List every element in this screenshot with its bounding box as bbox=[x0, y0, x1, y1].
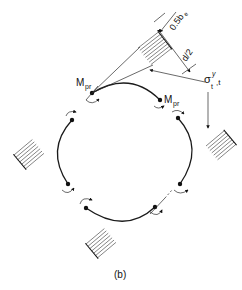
moment-label-right: M pr bbox=[164, 94, 180, 108]
hinge-axis bbox=[165, 190, 172, 198]
figure-caption: (b) bbox=[114, 269, 126, 280]
hinge-points bbox=[66, 91, 182, 210]
svg-text:t: t bbox=[211, 83, 213, 90]
hinge-axis bbox=[150, 198, 165, 214]
svg-text:e: e bbox=[182, 10, 189, 17]
arc-right bbox=[178, 118, 192, 184]
hinge-point bbox=[70, 118, 74, 122]
moment-arrow bbox=[172, 110, 184, 114]
hinge-point bbox=[66, 182, 70, 186]
moment-arrow bbox=[154, 106, 164, 108]
stress-block-left bbox=[13, 139, 44, 170]
dim-extension bbox=[154, 13, 165, 22]
arc-top bbox=[92, 83, 160, 100]
stress-label: σ y t ,t bbox=[204, 70, 221, 90]
dim-label-top: 0.5b e bbox=[167, 8, 189, 33]
svg-text:pr: pr bbox=[85, 83, 92, 91]
moment-arrow bbox=[66, 112, 76, 117]
stress-block-right bbox=[205, 130, 236, 161]
arc-bottom bbox=[86, 207, 155, 221]
moment-label-left: M pr bbox=[76, 77, 92, 91]
svg-text:,t: ,t bbox=[216, 78, 221, 87]
moment-arrow bbox=[62, 188, 74, 193]
hinge-point bbox=[176, 116, 180, 120]
svg-text:M: M bbox=[164, 94, 172, 105]
moment-arrow bbox=[80, 199, 92, 204]
hinge-point bbox=[158, 98, 162, 102]
hinge-point bbox=[178, 182, 182, 186]
moment-arrow bbox=[174, 190, 188, 193]
leader-line bbox=[92, 47, 140, 93]
moment-arrows bbox=[62, 99, 188, 215]
arc-left bbox=[57, 120, 72, 184]
hinge-point bbox=[84, 206, 88, 210]
svg-text:M: M bbox=[76, 77, 84, 88]
stress-block-top bbox=[137, 31, 172, 65]
moment-arrow bbox=[86, 99, 99, 103]
stress-pointer bbox=[150, 70, 205, 82]
svg-text:pr: pr bbox=[173, 100, 180, 108]
svg-text:σ: σ bbox=[204, 73, 211, 85]
svg-text:y: y bbox=[211, 70, 216, 78]
leader-line bbox=[92, 65, 153, 93]
stress-block-bottom bbox=[85, 228, 116, 259]
plastic-hinge-diagram: M pr M pr 0.5b e d/2 σ y t ,t (b) bbox=[0, 0, 242, 290]
dim-extension bbox=[182, 64, 196, 74]
